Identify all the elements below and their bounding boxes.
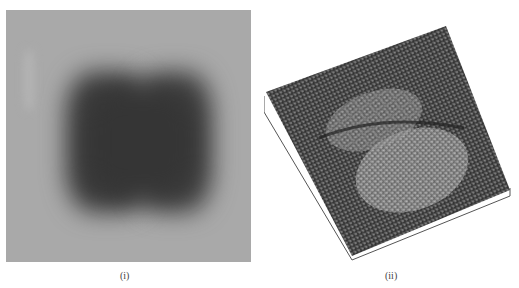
faint-streak: [24, 50, 34, 110]
surface-plot-panel: [264, 20, 514, 266]
grayscale-image-panel: [6, 10, 251, 262]
caption-i: (i): [120, 270, 129, 281]
dark-blob-center: [86, 90, 196, 195]
caption-ii: (ii): [385, 270, 397, 281]
